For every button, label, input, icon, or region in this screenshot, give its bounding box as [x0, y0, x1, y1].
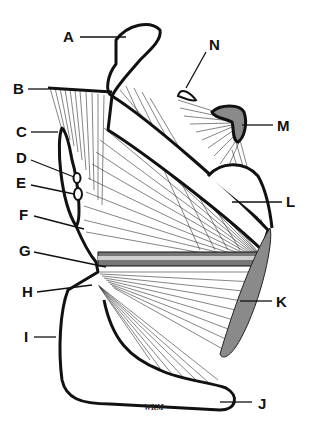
label-k: K: [276, 293, 287, 310]
label-i: I: [24, 328, 28, 345]
structure-d: [74, 173, 81, 183]
scapula-muscle-diagram: A B C D E F G H I J K L M N WKM: [0, 0, 309, 427]
label-j: J: [258, 395, 266, 412]
superior-border-b: [48, 88, 112, 92]
label-e: E: [16, 174, 26, 191]
label-n: N: [209, 36, 220, 53]
label-l: L: [286, 193, 295, 210]
structure-m: [212, 106, 246, 142]
label-h: H: [22, 283, 33, 300]
artist-signature: WKM: [144, 403, 164, 412]
structure-n: [178, 91, 196, 100]
acromion-a: [108, 25, 161, 96]
label-m: M: [277, 117, 290, 134]
label-a: A: [63, 28, 74, 45]
label-f: F: [19, 206, 28, 223]
label-g: G: [19, 242, 31, 259]
label-d: D: [16, 149, 27, 166]
structure-e: [74, 188, 82, 200]
label-c: C: [16, 123, 27, 140]
label-b: B: [13, 80, 24, 97]
